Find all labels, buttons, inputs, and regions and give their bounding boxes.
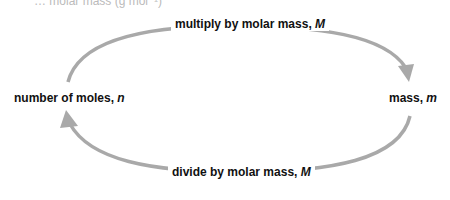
- bottom-arc-arrow: [70, 116, 410, 172]
- moles-node-label: number of moles, n: [10, 91, 129, 105]
- bottom-arrowhead-icon: [60, 110, 78, 128]
- divide-label: divide by molar mass, M: [168, 165, 315, 179]
- mass-node-label: mass, m: [385, 91, 441, 105]
- top-arrowhead-icon: [398, 64, 414, 82]
- multiply-label: multiply by molar mass, M: [171, 17, 329, 31]
- top-arc-arrow: [68, 26, 406, 82]
